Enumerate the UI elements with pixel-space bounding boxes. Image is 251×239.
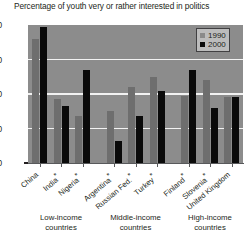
bar-1990 [203,80,210,163]
x-label-text: China [19,170,40,190]
bar-2000 [232,97,239,163]
group-low-line2: countries [45,223,77,232]
x-tick-mark [210,164,211,167]
legend-label-1990: 1990 [208,32,226,40]
bar-1990 [107,111,114,163]
x-axis-label-turkey: Turkey* [130,171,158,197]
y-tick-mark-60 [24,59,28,61]
y-tick-label-60: 60 [0,55,2,65]
group-low-line1: Low-income [40,213,82,222]
bar-2000 [211,108,218,163]
legend: 1990 2000 [196,28,230,52]
bar-2000 [115,141,122,163]
group-middle-line2: countries [120,223,152,232]
bar-2000 [189,70,196,163]
y-tick-mark-20 [24,128,28,130]
bar-group [32,25,50,163]
bar-group [75,25,93,163]
x-axis-label-china: China [19,170,40,190]
y-tick-label-40: 40 [0,89,2,99]
bar-2000 [158,91,165,163]
x-tick-mark [83,164,84,167]
bar-1990 [224,97,231,163]
x-tick-mark [189,164,190,167]
group-high-line1: High-income [188,213,232,222]
bar-group [54,25,72,163]
group-label-high-income: High-income countries [165,213,251,232]
x-axis-label-nigeria: Nigeria* [54,171,83,198]
y-tick-mark-80 [24,24,28,26]
page-title: Percentage of youth very or rather inter… [14,1,209,11]
legend-item-1990: 1990 [200,31,226,40]
bar-group [150,25,168,163]
group-high-line2: countries [194,223,226,232]
bar-1990 [54,99,61,163]
x-tick-mark [232,164,233,167]
x-tick-mark [61,164,62,167]
y-tick-label-0: 0 [0,158,2,168]
bar-2000 [136,116,143,163]
x-tick-mark [40,164,41,167]
y-tick-label-80: 80 [0,20,2,30]
bar-2000 [62,106,69,163]
bar-1990 [128,87,135,163]
bar-2000 [83,70,90,163]
legend-item-2000: 2000 [200,40,226,49]
y-tick-mark-40 [24,93,28,95]
bar-1990 [150,77,157,163]
y-tick-label-20: 20 [0,124,2,134]
x-tick-mark [114,164,115,167]
bar-group [128,25,146,163]
bar-2000 [40,27,47,163]
chart-container: Percentage of youth very or rather inter… [0,0,251,239]
group-middle-line1: Middle-income [110,213,161,222]
legend-label-2000: 2000 [208,41,226,49]
x-tick-mark [136,164,137,167]
bar-1990 [32,39,39,163]
bar-1990 [181,96,188,163]
legend-swatch-1990-icon [200,33,205,38]
bar-1990 [75,116,82,163]
bar-group [107,25,125,163]
legend-swatch-2000-icon [200,42,205,47]
x-tick-mark [157,164,158,167]
